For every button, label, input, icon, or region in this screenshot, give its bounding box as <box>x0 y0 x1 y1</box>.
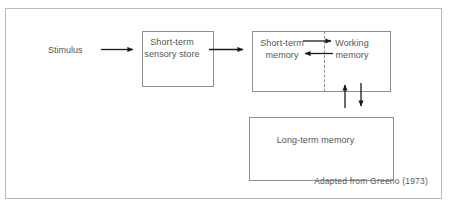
label-working-memory: Working memory <box>320 37 384 61</box>
figure-caption: Adapted from Greeno (1973) <box>268 176 428 187</box>
label-stimulus: Stimulus <box>48 44 100 56</box>
diagram-page: Stimulus Short-term sensory store Short-… <box>0 0 455 214</box>
label-long-term-memory: Long-term memory <box>243 134 388 146</box>
node-long-term-memory <box>249 117 394 181</box>
label-short-term-memory: Short-term memory <box>248 37 316 61</box>
label-sensory-store: Short-term sensory store <box>136 36 208 60</box>
